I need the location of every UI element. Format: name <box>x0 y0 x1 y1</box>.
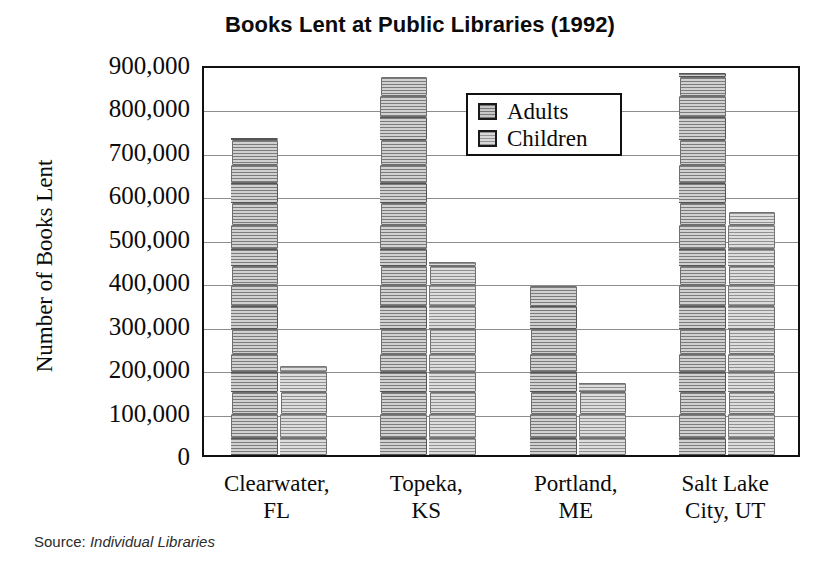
bar-children-3 <box>728 212 775 455</box>
book-block <box>381 203 427 225</box>
x-tick-line2: ME <box>489 497 663 524</box>
book-block <box>380 372 427 392</box>
bar-adults-0 <box>231 138 278 455</box>
book-block <box>232 140 278 165</box>
book-block <box>429 306 476 329</box>
book-block <box>280 414 327 438</box>
book-block <box>679 285 726 306</box>
x-tick-line1: Clearwater, <box>190 470 364 497</box>
book-block <box>679 414 726 438</box>
book-block <box>231 138 278 140</box>
y-axis-tick-labels: 900,000800,000700,000600,000500,000400,0… <box>0 66 190 457</box>
book-block <box>728 225 775 249</box>
book-block <box>231 183 278 203</box>
book-block <box>381 392 427 414</box>
x-tick-label: Topeka,KS <box>340 470 514 524</box>
book-block <box>679 354 726 372</box>
book-block <box>679 183 726 203</box>
book-block <box>530 414 577 438</box>
book-block <box>728 438 775 455</box>
source-name: Individual Libraries <box>90 533 215 550</box>
book-block <box>232 203 278 225</box>
book-block <box>729 392 775 414</box>
y-tick-label: 500,000 <box>0 227 190 252</box>
book-block <box>680 77 726 96</box>
book-block <box>531 392 577 414</box>
book-block <box>531 329 577 354</box>
y-tick-label: 800,000 <box>0 96 190 121</box>
book-block <box>679 306 726 329</box>
book-block <box>679 73 726 77</box>
book-block <box>579 438 626 455</box>
book-block <box>429 414 476 438</box>
book-block <box>381 140 427 165</box>
x-tick-line2: KS <box>340 497 514 524</box>
book-block <box>729 266 775 285</box>
book-block <box>580 392 626 414</box>
book-block <box>429 372 476 392</box>
y-tick-label: 600,000 <box>0 183 190 208</box>
x-tick-line2: City, UT <box>639 497 813 524</box>
y-tick-label: 400,000 <box>0 270 190 295</box>
book-block <box>680 329 726 354</box>
book-block <box>728 285 775 306</box>
x-tick-line1: Portland, <box>489 470 663 497</box>
source-prefix: Source: <box>34 533 86 550</box>
bar-children-0 <box>280 366 327 455</box>
book-block <box>429 262 476 266</box>
chart-figure: Books Lent at Public Libraries (1992) Nu… <box>0 0 840 566</box>
book-block <box>679 438 726 455</box>
book-block <box>679 96 726 117</box>
book-block <box>679 372 726 392</box>
book-block <box>728 414 775 438</box>
y-tick-label: 700,000 <box>0 140 190 165</box>
book-block <box>232 392 278 414</box>
book-block <box>728 306 775 329</box>
book-block <box>231 225 278 249</box>
book-block <box>381 329 427 354</box>
book-block <box>530 306 577 329</box>
bar-children-2 <box>579 383 626 455</box>
y-tick-label: 300,000 <box>0 314 190 339</box>
book-block <box>680 266 726 285</box>
x-tick-label: Salt LakeCity, UT <box>639 470 813 524</box>
book-block <box>728 372 775 392</box>
book-block <box>280 372 327 392</box>
book-block <box>679 117 726 140</box>
book-block <box>429 354 476 372</box>
bar-adults-2 <box>530 286 577 455</box>
book-block <box>280 438 327 455</box>
book-block <box>680 140 726 165</box>
bar-adults-1 <box>380 77 427 455</box>
book-block <box>728 249 775 266</box>
book-block <box>380 96 427 117</box>
book-block <box>579 414 626 438</box>
book-block <box>281 392 327 414</box>
book-block <box>380 183 427 203</box>
book-block <box>380 306 427 329</box>
book-block <box>729 212 775 225</box>
book-block <box>231 354 278 372</box>
book-block <box>530 372 577 392</box>
x-tick-line1: Salt Lake <box>639 470 813 497</box>
legend-label-children: Children <box>507 127 588 150</box>
book-block <box>380 354 427 372</box>
book-block <box>380 414 427 438</box>
legend-swatch-adults <box>478 103 497 120</box>
x-tick-line1: Topeka, <box>340 470 514 497</box>
book-block <box>231 438 278 455</box>
book-block <box>380 285 427 306</box>
y-tick-label: 100,000 <box>0 401 190 426</box>
book-block <box>280 366 327 372</box>
bar-children-1 <box>429 262 476 455</box>
chart-title: Books Lent at Public Libraries (1992) <box>0 12 840 38</box>
book-block <box>579 383 626 392</box>
book-block <box>729 329 775 354</box>
book-block <box>231 306 278 329</box>
book-block <box>430 392 476 414</box>
legend-swatch-children <box>478 130 497 147</box>
x-tick-line2: FL <box>190 497 364 524</box>
x-tick-label: Portland,ME <box>489 470 663 524</box>
legend-label-adults: Adults <box>507 100 568 123</box>
book-block <box>380 438 427 455</box>
